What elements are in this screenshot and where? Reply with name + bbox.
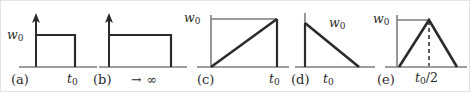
- panel-tag-e: (e): [377, 73, 395, 86]
- pulse-curve-e: [399, 20, 457, 67]
- tick-label-e: t0/2: [415, 72, 438, 86]
- panel-a: w0 (a) t0: [1, 1, 101, 92]
- tick-label-c: t0: [269, 73, 280, 87]
- limit-note-b: → ∞: [131, 74, 157, 87]
- tick-label-a: t0: [67, 73, 78, 87]
- amplitude-label-c: w0: [184, 12, 200, 26]
- pulse-curve-b: [109, 35, 171, 67]
- panel-c: w0 (c) t0: [183, 1, 293, 92]
- panel-tag-a: (a): [11, 73, 29, 86]
- panel-tag-d: (d): [291, 73, 309, 86]
- panel-e: w0 (e) t0/2: [373, 1, 470, 92]
- pulse-curve-a: [36, 35, 75, 67]
- panel-b: (b) → ∞: [93, 1, 193, 92]
- amplitude-label-e: w0: [373, 13, 389, 27]
- amplitude-label-a: w0: [7, 29, 23, 43]
- pulse-curve-c: [211, 19, 277, 67]
- amplitude-label-d: w0: [329, 17, 345, 31]
- panel-d: w0 (d) t0: [289, 1, 379, 92]
- tick-label-d: t0: [323, 73, 334, 87]
- panel-tag-b: (b): [93, 73, 111, 86]
- figure-container: w0 (a) t0 (b) → ∞ w0 (c) t0: [0, 0, 470, 92]
- panel-tag-c: (c): [197, 73, 214, 86]
